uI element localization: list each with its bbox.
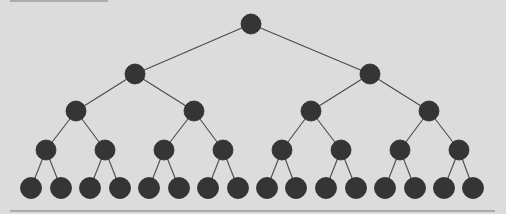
tree-node: [213, 140, 233, 160]
leaf-node: [51, 178, 72, 199]
leaf-node: [169, 178, 190, 199]
leaf-node: [434, 178, 455, 199]
tree-node: [390, 140, 410, 160]
tree-edge: [135, 74, 194, 111]
leaf-node: [346, 178, 367, 199]
root-node: [241, 14, 261, 34]
tree-node: [36, 140, 56, 160]
tree-graphic: [0, 0, 506, 214]
tree-edge: [135, 24, 251, 74]
leaf-node: [257, 178, 278, 199]
tree-node: [449, 140, 469, 160]
leaf-node: [80, 178, 101, 199]
tree-edges: [31, 24, 473, 188]
leaf-node: [198, 178, 219, 199]
leaf-node: [21, 178, 42, 199]
leaf-node: [286, 178, 307, 199]
tree-node: [331, 140, 351, 160]
tree-node: [66, 101, 86, 121]
tree-node: [125, 64, 145, 84]
leaf-node: [463, 178, 484, 199]
leaf-node: [405, 178, 426, 199]
leaf-node: [110, 178, 131, 199]
leaf-node: [375, 178, 396, 199]
tree-edge: [251, 24, 370, 74]
tree-edge: [76, 74, 135, 111]
leaf-node: [316, 178, 337, 199]
tree-node: [301, 101, 321, 121]
tree-node: [272, 140, 292, 160]
leaf-node: [139, 178, 160, 199]
tree-node: [95, 140, 115, 160]
tree-diagram: [0, 0, 506, 214]
tree-node: [184, 101, 204, 121]
tree-node: [154, 140, 174, 160]
leaf-node: [228, 178, 249, 199]
tree-edge: [370, 74, 429, 111]
tree-node: [419, 101, 439, 121]
tree-nodes: [21, 14, 484, 199]
tree-node: [360, 64, 380, 84]
tree-edge: [311, 74, 370, 111]
